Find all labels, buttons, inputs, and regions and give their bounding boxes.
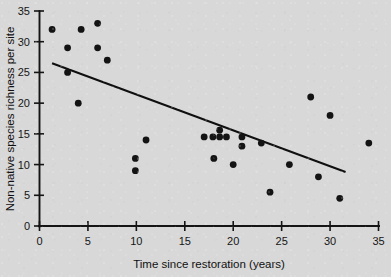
x-tick-label: 0 xyxy=(36,235,42,247)
data-point xyxy=(336,195,343,202)
figure-container: 05101520253035 05101520253035 Time since… xyxy=(0,0,391,277)
x-tick-label: 10 xyxy=(130,235,142,247)
y-tick-label: 25 xyxy=(18,66,30,78)
data-point xyxy=(230,161,237,168)
data-point xyxy=(258,140,265,147)
scatter-plot: 05101520253035 05101520253035 Time since… xyxy=(0,0,391,277)
x-tick-label: 20 xyxy=(227,235,239,247)
x-axis-title: Time since restoration (years) xyxy=(133,258,285,270)
data-point xyxy=(132,167,139,174)
data-point xyxy=(286,161,293,168)
data-point xyxy=(239,134,246,141)
x-tick-label: 5 xyxy=(85,235,91,247)
data-point xyxy=(216,134,223,141)
y-tick-label: 5 xyxy=(24,189,30,201)
data-point xyxy=(216,127,223,134)
data-point xyxy=(94,20,101,27)
x-tick-label: 25 xyxy=(276,235,288,247)
data-point xyxy=(223,134,230,141)
data-point xyxy=(201,134,208,141)
y-tick-label: 0 xyxy=(24,220,30,232)
data-point xyxy=(75,100,82,107)
data-point xyxy=(104,57,111,64)
x-tick-label: 35 xyxy=(372,235,384,247)
y-tick-label: 35 xyxy=(18,5,30,17)
y-tick-label: 20 xyxy=(18,97,30,109)
data-point xyxy=(64,44,71,51)
y-tick-label: 10 xyxy=(18,159,30,171)
data-point xyxy=(132,155,139,162)
data-point xyxy=(267,189,274,196)
data-point xyxy=(315,173,322,180)
data-point xyxy=(143,137,150,144)
y-tick-label: 15 xyxy=(18,128,30,140)
data-point xyxy=(210,155,217,162)
data-point xyxy=(49,26,56,33)
data-point xyxy=(239,143,246,150)
y-tick-label: 30 xyxy=(18,36,30,48)
data-point xyxy=(209,134,216,141)
y-axis-title: Non-native species richness per site xyxy=(4,27,16,212)
data-point xyxy=(64,69,71,76)
data-point xyxy=(327,112,334,119)
data-point xyxy=(365,140,372,147)
data-point xyxy=(94,44,101,51)
data-point xyxy=(307,94,314,101)
data-point xyxy=(78,26,85,33)
x-tick-label: 30 xyxy=(324,235,336,247)
x-tick-label: 15 xyxy=(179,235,191,247)
